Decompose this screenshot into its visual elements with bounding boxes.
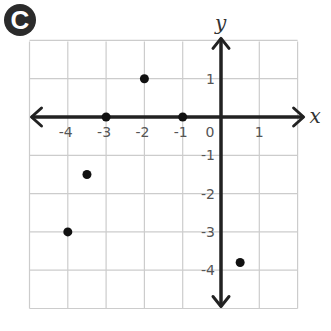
y-tick-label: -3 xyxy=(201,224,215,240)
x-tick-label: -1 xyxy=(174,124,188,140)
x-axis-label: x xyxy=(310,104,321,128)
x-tick-label: -2 xyxy=(135,124,149,140)
x-tick-label: -3 xyxy=(97,124,111,140)
x-tick-label: 1 xyxy=(255,124,264,140)
data-point xyxy=(63,227,72,236)
data-point xyxy=(178,113,187,122)
x-tick-label: -4 xyxy=(59,124,73,140)
y-tick-label: -2 xyxy=(201,186,215,202)
data-point xyxy=(236,258,245,267)
y-axis-label: y xyxy=(214,11,227,35)
y-tick-label: -4 xyxy=(201,262,215,278)
y-tick-label: -1 xyxy=(201,147,215,163)
data-point xyxy=(82,170,91,179)
data-point xyxy=(140,74,149,83)
x-tick-label: 0 xyxy=(206,124,215,140)
data-point xyxy=(102,113,111,122)
y-tick-label: 1 xyxy=(206,71,215,87)
coordinate-plane: xy-4-3-2-1011-1-2-3-4 xyxy=(0,0,331,331)
